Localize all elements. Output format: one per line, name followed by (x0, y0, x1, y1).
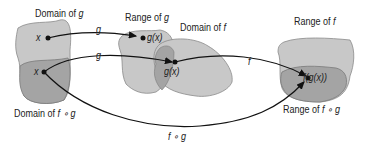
gx-label-mid: g(x) (164, 66, 180, 77)
gx-point-mid (173, 60, 178, 65)
gx-label-top: g(x) (147, 32, 163, 43)
range-g-label: Range of g (125, 12, 169, 23)
x-label-mid: x (34, 66, 39, 77)
f-arrow-label: f (248, 56, 251, 67)
domain-fog-label: Domain of f ∘ g (14, 108, 75, 119)
domain-g-label: Domain of g (35, 8, 84, 19)
range-fog-label: Range of f ∘ g (283, 104, 340, 115)
fog-arrow-label: f ∘ g (168, 131, 186, 142)
gx-point-top (141, 36, 146, 41)
fgx-label: f(g(x)) (303, 72, 327, 83)
g-arrow-label-mid: g (96, 50, 101, 61)
composition-diagram: Domain of g Range of g Domain of f Range… (0, 0, 372, 146)
x-point-top (46, 36, 51, 41)
domain-f-label: Domain of f (180, 22, 226, 33)
domain-fog-region (20, 58, 70, 103)
range-f-label: Range of f (294, 16, 336, 27)
g-arrow-label-top: g (96, 24, 101, 35)
x-point-mid (42, 70, 47, 75)
x-label-top: x (36, 32, 41, 43)
